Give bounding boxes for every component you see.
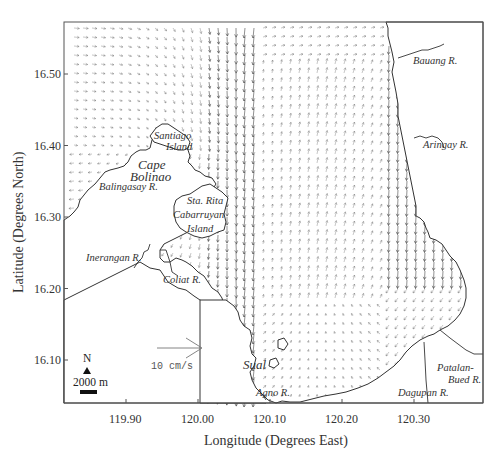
x-tick-label: 120.20 xyxy=(325,413,358,425)
label-cabarruyan-island: Island xyxy=(187,224,213,235)
label-sual: Sual xyxy=(243,358,266,371)
label-dagupan-river: Dagupan R. xyxy=(398,388,449,399)
x-axis-title: Longitude (Degrees East) xyxy=(204,434,348,448)
land-masses xyxy=(64,22,483,403)
label-balingasay-river: Balingasay R. xyxy=(99,182,158,193)
south-coast-land xyxy=(276,22,483,403)
label-sta-rita: Sta. Rita xyxy=(187,196,223,207)
scale-bar-label: 2000 m xyxy=(73,377,108,389)
label-santiago: Santiago xyxy=(154,131,191,142)
y-axis-title: Latitude (Degrees North) xyxy=(12,152,26,294)
label-inerangan-river: Inerangan R. xyxy=(86,253,141,264)
label-coliat-river: Coliat R. xyxy=(163,275,201,286)
label-cabarruyan: Cabarruyan xyxy=(173,210,224,221)
y-tick-label: 16.40 xyxy=(34,140,61,152)
north-label: N xyxy=(83,353,91,365)
small-island-2 xyxy=(269,358,279,368)
label-bauang-river: Bauang R. xyxy=(413,56,457,67)
x-tick-label: 120.00 xyxy=(181,413,214,425)
reference-vector-label: 10 cm/s xyxy=(151,362,193,372)
x-tick-label: 120.10 xyxy=(253,413,286,425)
label-agno-river: Agno R. xyxy=(256,388,290,399)
x-tick-label: 119.90 xyxy=(109,413,142,425)
label-santiago-island: Island xyxy=(166,142,192,153)
y-tick-label: 16.10 xyxy=(34,354,61,366)
small-island-1 xyxy=(278,338,288,350)
label-aringay-river: Aringay R. xyxy=(423,140,469,151)
scale-bar xyxy=(80,390,97,394)
y-tick-label: 16.20 xyxy=(34,283,61,295)
label-patalan: Patalan- xyxy=(437,363,474,374)
y-tick-label: 16.50 xyxy=(34,68,61,80)
label-bued-river: Bued R. xyxy=(448,375,481,386)
x-tick-label: 120.30 xyxy=(397,413,430,425)
y-tick-label: 16.30 xyxy=(34,211,61,223)
